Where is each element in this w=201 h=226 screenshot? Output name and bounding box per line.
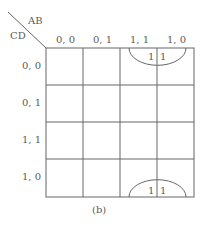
col-var-label: AB [28, 15, 43, 26]
row-var-label: CD [10, 30, 26, 41]
row-header-1: 0, 1 [22, 97, 41, 108]
cell-r0-c3: 1 [160, 51, 166, 62]
cell-r0-c2: 1 [148, 51, 154, 62]
col-header-3: 1, 0 [167, 34, 186, 45]
figure-caption: (b) [92, 204, 106, 215]
col-header-2: 1, 1 [130, 34, 149, 45]
col-header-0: 0, 0 [56, 34, 75, 45]
col-header-1: 0, 1 [93, 34, 112, 45]
row-header-2: 1, 1 [22, 134, 41, 145]
cell-r3-c3: 1 [160, 185, 166, 196]
row-header-3: 1, 0 [22, 171, 41, 182]
cell-r3-c2: 1 [148, 185, 154, 196]
row-header-0: 0, 0 [22, 60, 41, 71]
